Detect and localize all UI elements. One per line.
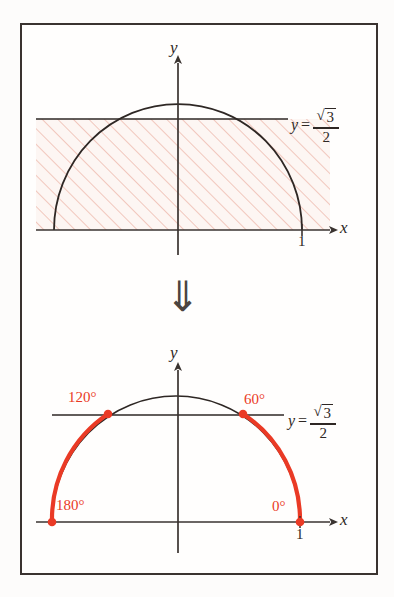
equation-fraction-top: √ 3 2 xyxy=(313,107,339,145)
equation-lhs-top: y xyxy=(291,116,298,134)
angle-point-120 xyxy=(104,410,113,419)
radicand-top: 3 xyxy=(325,108,336,126)
radical-sign-icon-bottom: √ xyxy=(313,404,321,419)
shaded-band xyxy=(36,119,330,230)
angle-point-180 xyxy=(48,518,57,527)
angle-label-180: 180° xyxy=(56,497,85,514)
equation-fraction-bottom: √ 3 2 xyxy=(310,403,336,441)
fraction-numerator-top: √ 3 xyxy=(313,107,339,127)
x-axis-label-bottom: x xyxy=(340,510,348,530)
angle-point-0 xyxy=(296,518,305,527)
fraction-numerator-bottom: √ 3 xyxy=(310,403,336,423)
equation-equals-bottom: = xyxy=(298,412,307,430)
x-tick-label-one-top: 1 xyxy=(298,233,306,250)
x-axis-label-top: x xyxy=(340,218,348,238)
x-tick-label-one-bottom: 1 xyxy=(296,526,304,543)
angle-label-60: 60° xyxy=(244,391,265,408)
equation-equals-top: = xyxy=(301,116,310,134)
equation-lhs-bottom: y xyxy=(288,412,295,430)
radical-sign-icon: √ xyxy=(316,108,324,123)
fraction-denominator-top: 2 xyxy=(319,129,333,145)
y-axis-label-top: y xyxy=(170,38,178,58)
fraction-denominator-bottom: 2 xyxy=(316,425,330,441)
sqrt-group-bottom: √ 3 xyxy=(313,403,333,422)
top-panel-graphics xyxy=(36,63,330,255)
angle-label-0: 0° xyxy=(272,498,286,515)
radicand-bottom: 3 xyxy=(322,404,333,422)
sqrt-group-top: √ 3 xyxy=(316,107,336,126)
cut-line-equation-bottom: y = √ 3 2 xyxy=(288,402,336,440)
transition-down-arrow-icon: ⇓ xyxy=(165,276,200,318)
diagram-page: y x 1 y = √ 3 2 ⇓ y x 1 120° 60° 180° 0°… xyxy=(0,0,394,597)
cut-line-equation-top: y = √ 3 2 xyxy=(291,106,339,144)
y-axis-label-bottom: y xyxy=(170,343,178,363)
angle-label-120: 120° xyxy=(68,389,97,406)
angle-point-60 xyxy=(239,410,248,419)
